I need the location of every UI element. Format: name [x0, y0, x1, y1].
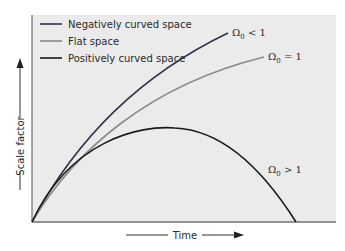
y-axis-label-group: Scale factor [15, 58, 26, 190]
legend-label-negative: Negatively curved space [68, 19, 192, 30]
y-axis-arrowhead-icon [17, 58, 24, 68]
x-axis-label: Time [172, 230, 197, 241]
scale-factor-diagram: Negatively curved space Flat space Posit… [0, 0, 345, 251]
y-axis-label: Scale factor [15, 115, 26, 175]
legend-label-positive: Positively curved space [68, 53, 185, 64]
legend-label-flat: Flat space [68, 36, 119, 47]
x-axis-arrowhead-icon [234, 232, 244, 239]
x-axis-label-group: Time [126, 230, 244, 241]
